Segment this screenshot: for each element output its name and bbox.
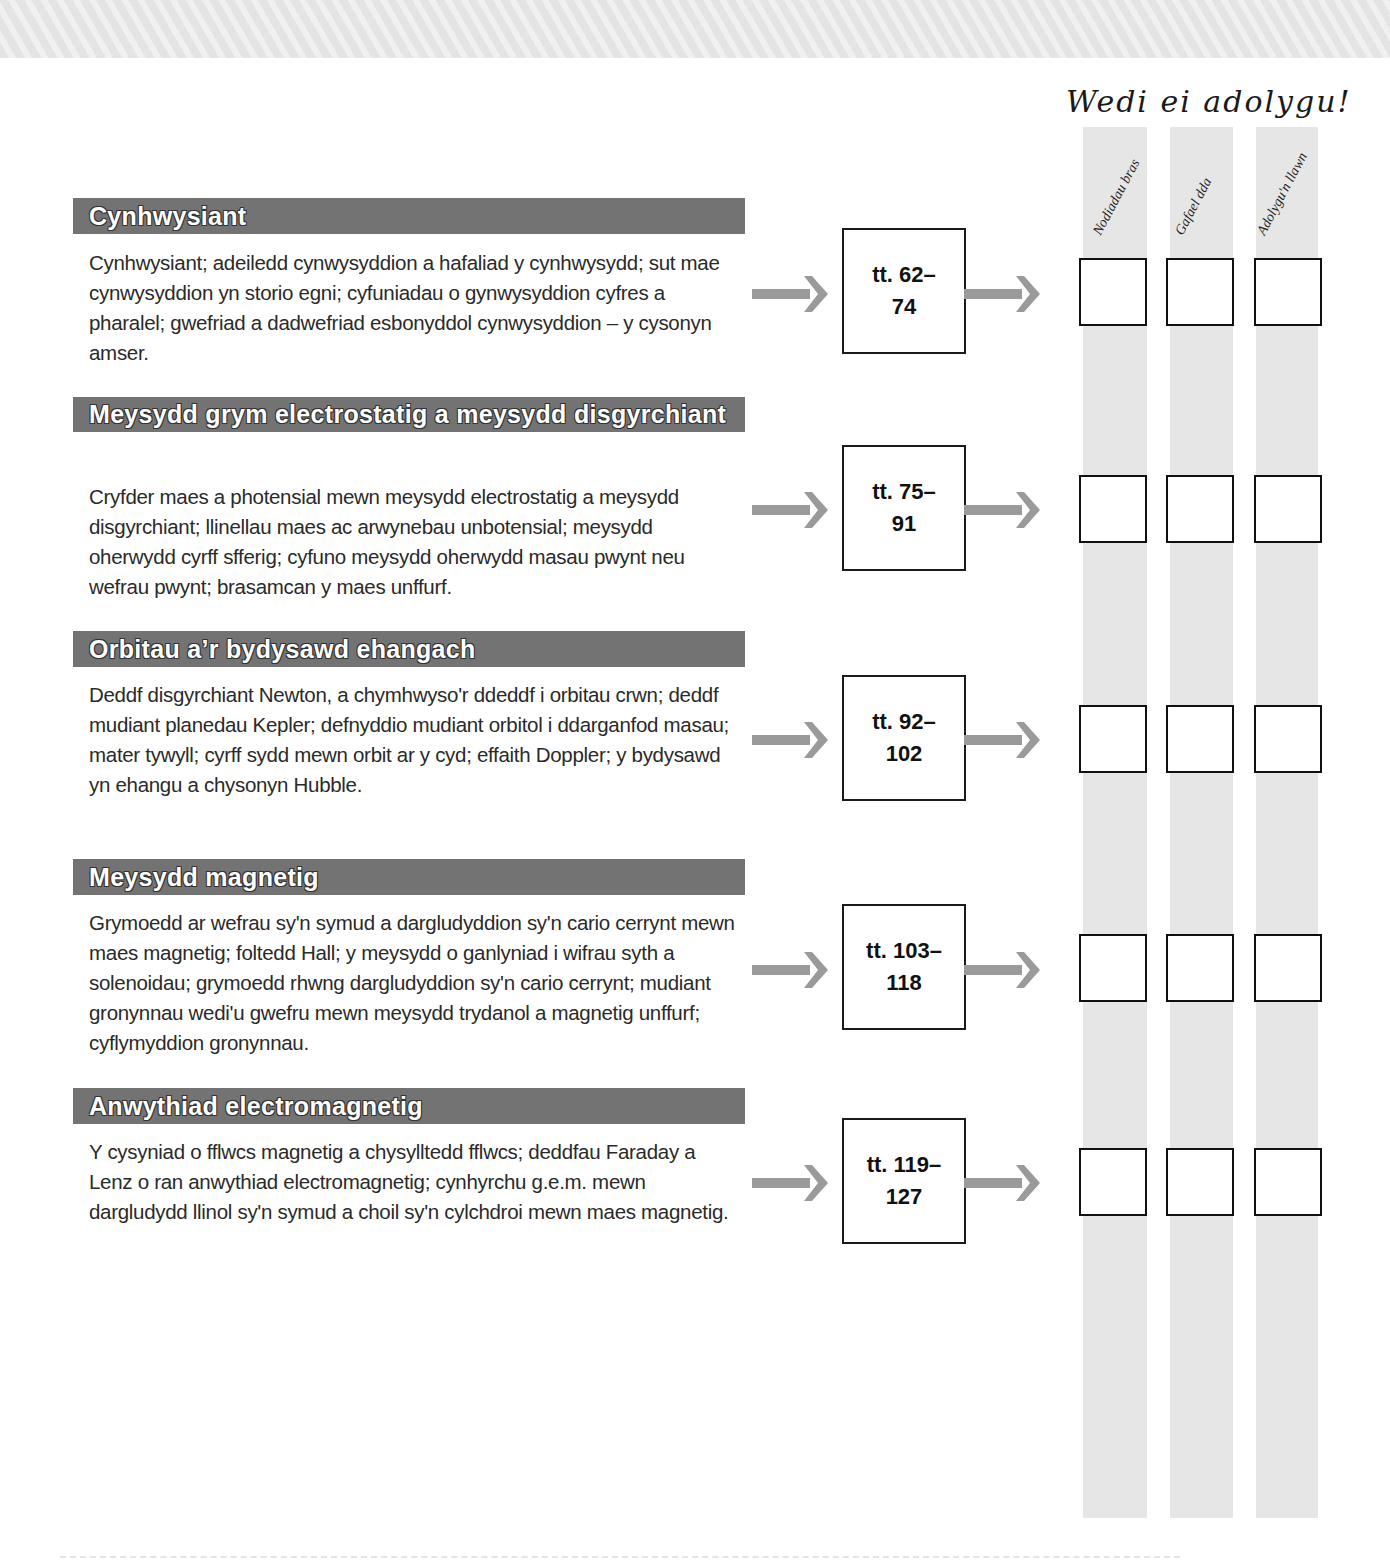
page-reference-box: tt. 62–74: [842, 228, 966, 354]
checkbox-rough-notes[interactable]: [1079, 475, 1147, 543]
page-reference-box: tt. 119–127: [842, 1118, 966, 1244]
checkbox-good-grasp[interactable]: [1166, 705, 1234, 773]
revised-title: Wedi ei adolygu!: [1066, 84, 1386, 119]
arrow-right-icon: [964, 1163, 1042, 1203]
checkbox-fully-revised[interactable]: [1254, 258, 1322, 326]
page-range-start: tt. 75–: [872, 476, 936, 508]
checkbox-rough-notes[interactable]: [1079, 1148, 1147, 1216]
section-body: Cynhwysiant; adeiledd cynwysyddion a haf…: [89, 248, 739, 368]
checkbox-rough-notes[interactable]: [1079, 934, 1147, 1002]
section-body: Deddf disgyrchiant Newton, a chymhwyso'r…: [89, 680, 739, 800]
page-range-start: tt. 92–: [872, 706, 936, 738]
section-title: Cynhwysiant: [73, 198, 745, 234]
arrow-right-icon: [752, 490, 830, 530]
arrow-right-icon: [752, 1163, 830, 1203]
arrow-right-icon: [964, 274, 1042, 314]
page-range-end: 118: [866, 967, 942, 999]
checkbox-good-grasp[interactable]: [1166, 934, 1234, 1002]
column-strip-fully-revised: [1256, 127, 1318, 1518]
arrow-right-icon: [752, 950, 830, 990]
section-body: Y cysyniad o fflwcs magnetig a chysyllte…: [89, 1137, 739, 1227]
decorative-footer-line: [60, 1556, 1180, 1558]
checkbox-fully-revised[interactable]: [1254, 705, 1322, 773]
section-body: Grymoedd ar wefrau sy'n symud a dargludy…: [89, 908, 739, 1058]
checkbox-rough-notes[interactable]: [1079, 705, 1147, 773]
arrow-right-icon: [964, 720, 1042, 760]
page-range-end: 102: [872, 738, 936, 770]
page-reference-box: tt. 75–91: [842, 445, 966, 571]
page-range-start: tt. 103–: [866, 935, 942, 967]
column-strip-good-grasp: [1170, 127, 1233, 1518]
checkbox-good-grasp[interactable]: [1166, 475, 1234, 543]
checkbox-rough-notes[interactable]: [1079, 258, 1147, 326]
checkbox-good-grasp[interactable]: [1166, 1148, 1234, 1216]
page-reference-box: tt. 103–118: [842, 904, 966, 1030]
checkbox-fully-revised[interactable]: [1254, 934, 1322, 1002]
column-strip-rough-notes: [1083, 127, 1147, 1518]
checkbox-good-grasp[interactable]: [1166, 258, 1234, 326]
section-title: Anwythiad electromagnetig: [73, 1088, 745, 1124]
arrow-right-icon: [752, 274, 830, 314]
section-title: Orbitau a’r bydysawd ehangach: [73, 631, 745, 667]
page-range-start: tt. 119–: [867, 1149, 942, 1181]
page-range-end: 74: [872, 291, 936, 323]
section-title: Meysydd magnetig: [73, 859, 745, 895]
section-body: Cryfder maes a photensial mewn meysydd e…: [89, 482, 739, 602]
page-range-start: tt. 62–: [872, 259, 936, 291]
checkbox-fully-revised[interactable]: [1254, 1148, 1322, 1216]
arrow-right-icon: [964, 950, 1042, 990]
page-reference-box: tt. 92–102: [842, 675, 966, 801]
arrow-right-icon: [964, 490, 1042, 530]
decorative-top-band: [0, 0, 1390, 58]
checkbox-fully-revised[interactable]: [1254, 475, 1322, 543]
arrow-right-icon: [752, 720, 830, 760]
page-range-end: 91: [872, 508, 936, 540]
section-title: Meysydd grym electrostatig a meysydd dis…: [73, 397, 745, 432]
page-range-end: 127: [867, 1181, 942, 1213]
